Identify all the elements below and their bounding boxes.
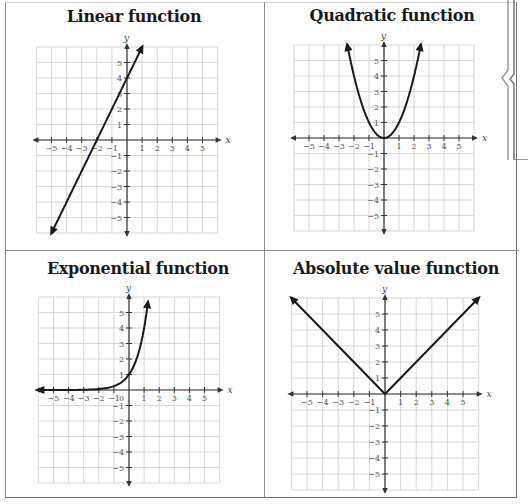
svg-text:2: 2: [375, 358, 380, 367]
svg-text:−4: −4: [318, 142, 330, 151]
svg-text:−4: −4: [367, 196, 379, 205]
svg-text:5: 5: [374, 57, 379, 66]
svg-text:−3: −3: [333, 142, 345, 151]
svg-text:4: 4: [185, 144, 190, 153]
svg-text:−3: −3: [112, 433, 124, 442]
svg-text:4: 4: [445, 398, 450, 407]
svg-text:2: 2: [374, 103, 379, 112]
function-plots: xy−5−4−3−2−112345−5−4−3−2−112345xy−5−4−3…: [0, 0, 528, 504]
svg-text:−5: −5: [303, 142, 315, 151]
graph-absolute-value: xy−5−4−3−2−112345−5−4−3−2−112345: [287, 284, 491, 494]
svg-text:3: 3: [172, 394, 177, 403]
svg-text:5: 5: [375, 310, 380, 319]
svg-text:−2: −2: [367, 165, 379, 174]
svg-text:2: 2: [117, 105, 122, 114]
svg-text:−4: −4: [112, 448, 124, 457]
svg-text:−5: −5: [46, 144, 58, 153]
svg-text:5: 5: [119, 309, 124, 318]
svg-text:2: 2: [155, 144, 160, 153]
svg-text:−5: −5: [301, 398, 313, 407]
svg-text:5: 5: [202, 394, 207, 403]
svg-text:−3: −3: [76, 144, 88, 153]
svg-text:4: 4: [117, 74, 122, 83]
axes: [32, 43, 221, 237]
graph-quadratic: xy−5−4−3−2−112345−5−4−3−2−112345: [290, 31, 487, 235]
svg-text:4: 4: [119, 324, 124, 333]
svg-text:−2: −2: [93, 394, 105, 403]
svg-text:1: 1: [119, 371, 124, 380]
svg-text:1: 1: [117, 121, 122, 130]
svg-text:5: 5: [117, 59, 122, 68]
svg-text:−5: −5: [48, 394, 60, 403]
svg-text:1: 1: [140, 144, 145, 153]
svg-text:−4: −4: [368, 454, 380, 463]
svg-text:5: 5: [200, 144, 205, 153]
svg-text:−3: −3: [78, 394, 90, 403]
svg-text:−5: −5: [368, 470, 380, 479]
x-axis-label: x: [228, 385, 233, 395]
svg-text:−2: −2: [348, 398, 360, 407]
svg-text:−5: −5: [112, 464, 124, 473]
svg-text:−3: −3: [110, 183, 122, 192]
svg-text:−2: −2: [368, 422, 380, 431]
svg-text:4: 4: [374, 72, 379, 81]
x-axis-label: x: [482, 133, 487, 143]
svg-text:2: 2: [414, 398, 419, 407]
y-axis-label: y: [123, 33, 130, 43]
svg-text:−4: −4: [61, 144, 73, 153]
svg-text:−2: −2: [348, 142, 360, 151]
svg-text:5: 5: [456, 142, 461, 151]
curve-exponential: [35, 299, 151, 394]
svg-text:2: 2: [157, 394, 162, 403]
svg-text:−5: −5: [367, 212, 379, 221]
svg-text:−3: −3: [367, 181, 379, 190]
y-axis-label: y: [380, 31, 387, 41]
svg-text:3: 3: [426, 142, 431, 151]
svg-text:2: 2: [119, 355, 124, 364]
svg-text:−3: −3: [368, 438, 380, 447]
svg-text:1: 1: [396, 142, 401, 151]
svg-text:−4: −4: [63, 394, 75, 403]
svg-text:−2: −2: [112, 417, 124, 426]
svg-text:−3: −3: [332, 398, 344, 407]
svg-text:−4: −4: [317, 398, 329, 407]
graph-exponential: xy−5−4−3−2−112345−5−4−3−2−1123450: [34, 283, 232, 487]
svg-text:4: 4: [441, 142, 446, 151]
svg-text:1: 1: [398, 398, 403, 407]
svg-text:1: 1: [142, 394, 147, 403]
svg-text:−1: −1: [368, 406, 380, 415]
svg-text:−4: −4: [110, 198, 122, 207]
svg-text:3: 3: [170, 144, 175, 153]
svg-text:−1: −1: [110, 152, 122, 161]
svg-text:3: 3: [375, 342, 380, 351]
svg-text:3: 3: [119, 340, 124, 349]
svg-text:−5: −5: [110, 214, 122, 223]
svg-text:2: 2: [411, 142, 416, 151]
x-axis-label: x: [226, 135, 231, 145]
svg-text:4: 4: [375, 326, 380, 335]
svg-text:−2: −2: [110, 167, 122, 176]
graph-linear: xy−5−4−3−2−112345−5−4−3−2−112345: [32, 33, 230, 237]
x-axis-label: x: [487, 389, 492, 399]
svg-text:3: 3: [374, 88, 379, 97]
origin-label: 0: [119, 394, 124, 403]
svg-text:4: 4: [187, 394, 192, 403]
svg-text:5: 5: [460, 398, 465, 407]
svg-text:−1: −1: [367, 150, 379, 159]
y-axis-label: y: [381, 284, 388, 294]
svg-text:3: 3: [429, 398, 434, 407]
y-axis-label: y: [125, 283, 132, 293]
svg-text:1: 1: [375, 374, 380, 383]
svg-text:1: 1: [374, 119, 379, 128]
